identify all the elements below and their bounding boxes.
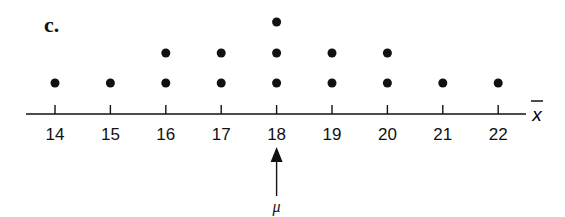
data-dot [383, 49, 392, 58]
data-dot [328, 49, 337, 58]
x-tick-label: 18 [267, 125, 286, 144]
x-tick-label: 17 [212, 125, 231, 144]
data-dot [51, 79, 60, 88]
data-dot [161, 49, 170, 58]
mu-label: μ [272, 198, 281, 216]
data-dot [272, 49, 281, 58]
arrow-up-icon [271, 147, 283, 162]
dot-plot: 141516171819202122 x μ [0, 0, 565, 217]
data-dot [494, 79, 503, 88]
data-dot [161, 79, 170, 88]
data-dots [51, 18, 503, 88]
x-tick-label: 19 [323, 125, 342, 144]
x-tick-label: 22 [489, 125, 508, 144]
x-tick-label: 14 [46, 125, 65, 144]
data-dot [328, 79, 337, 88]
x-axis-ticks: 141516171819202122 [46, 105, 508, 144]
data-dot [272, 79, 281, 88]
x-tick-label: 16 [156, 125, 175, 144]
x-tick-label: 21 [433, 125, 452, 144]
data-dot [217, 49, 226, 58]
data-dot [217, 79, 226, 88]
x-axis-label: x [531, 104, 543, 125]
data-dot [106, 79, 115, 88]
data-dot [438, 79, 447, 88]
x-tick-label: 20 [378, 125, 397, 144]
mean-annotation: μ [271, 147, 283, 216]
data-dot [272, 18, 281, 27]
x-tick-label: 15 [101, 125, 120, 144]
data-dot [383, 79, 392, 88]
